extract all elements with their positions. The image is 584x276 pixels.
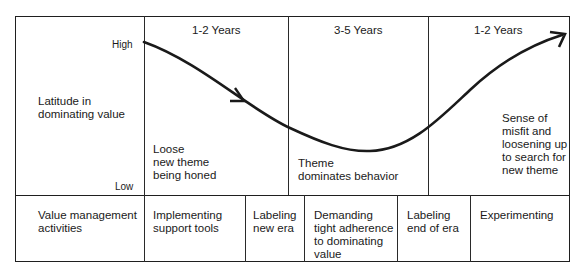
latitude-curve (0, 0, 584, 276)
latitude-curve-path (144, 35, 562, 151)
